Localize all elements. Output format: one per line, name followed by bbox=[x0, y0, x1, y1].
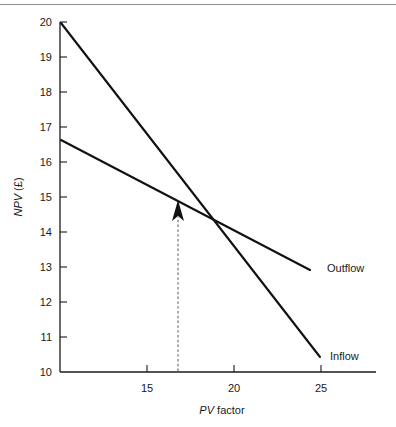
series-line-outflow bbox=[61, 140, 310, 270]
x-axis-title-plain: factor bbox=[214, 404, 245, 416]
x-tick-label-20: 20 bbox=[228, 382, 240, 394]
y-tick-label-18: 18 bbox=[40, 86, 52, 98]
y-tick-label-14: 14 bbox=[40, 226, 52, 238]
x-axis-title: PV factor bbox=[199, 404, 245, 416]
y-axis-title-italic: NPV bbox=[12, 192, 24, 216]
y-tick-label-12: 12 bbox=[40, 296, 52, 308]
x-tick-label-15: 15 bbox=[141, 382, 153, 394]
y-tick-label-19: 19 bbox=[40, 51, 52, 63]
x-tick-label-25: 25 bbox=[315, 382, 327, 394]
y-tick-label-20: 20 bbox=[40, 16, 52, 28]
y-tick-label-16: 16 bbox=[40, 156, 52, 168]
y-tick-label-10: 10 bbox=[40, 366, 52, 378]
y-axis-title-plain: (£) bbox=[12, 177, 24, 194]
series-line-inflow bbox=[61, 23, 320, 357]
series-label-outflow: Outflow bbox=[327, 262, 364, 274]
figure-container: 20 19 18 17 16 15 14 13 12 11 10 15 20 2… bbox=[0, 0, 396, 427]
y-tick-label-17: 17 bbox=[40, 121, 52, 133]
y-tick-label-13: 13 bbox=[40, 261, 52, 273]
y-tick-label-15: 15 bbox=[40, 191, 52, 203]
y-tick-label-11: 11 bbox=[41, 331, 52, 343]
chart-canvas: 20 19 18 17 16 15 14 13 12 11 10 15 20 2… bbox=[0, 0, 396, 427]
series-label-inflow: Inflow bbox=[330, 350, 359, 362]
y-axis-title: NPV (£) bbox=[12, 177, 24, 216]
